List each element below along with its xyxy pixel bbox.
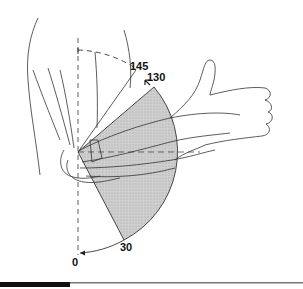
bottom-bar bbox=[0, 282, 70, 287]
elbow-rom-diagram: 145 130 30 0 bbox=[0, 0, 303, 289]
bottom-rule bbox=[70, 282, 303, 284]
hand bbox=[170, 60, 272, 160]
extension-arrow-icon bbox=[80, 251, 85, 256]
functional-range-sector bbox=[78, 87, 178, 240]
label-145: 145 bbox=[130, 60, 148, 72]
max-flexion-arc bbox=[78, 50, 135, 68]
extension-arc bbox=[80, 240, 124, 253]
label-0: 0 bbox=[72, 256, 78, 268]
label-130: 130 bbox=[147, 71, 165, 83]
label-30: 30 bbox=[120, 241, 132, 253]
